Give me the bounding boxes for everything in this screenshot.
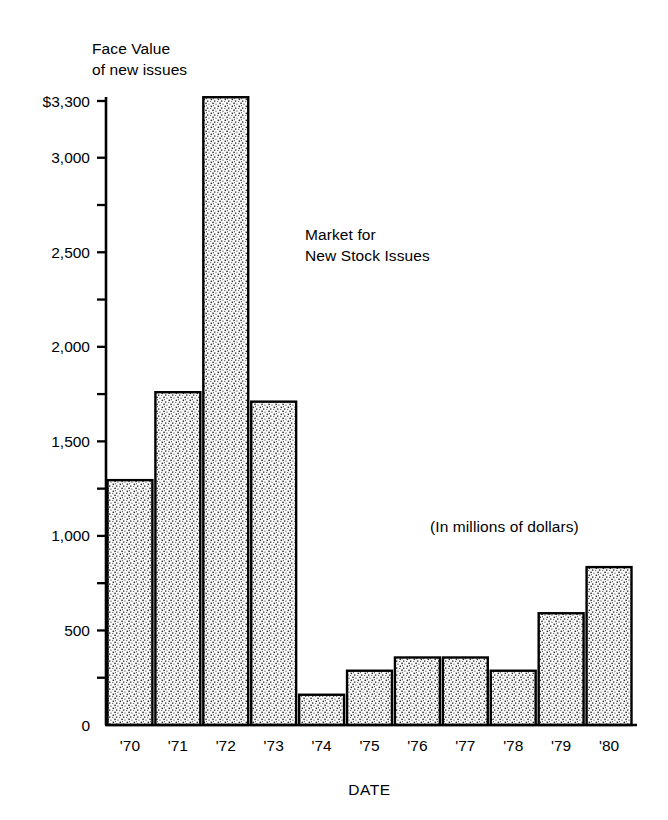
x-axis-title-text: DATE: [348, 781, 391, 798]
y-tick-label: $3,300: [43, 93, 91, 110]
y-tick-label: 0: [81, 717, 90, 734]
bar: [203, 97, 248, 725]
x-tick-label: '78: [503, 737, 523, 754]
x-tick-label: '72: [216, 737, 236, 754]
x-tick-labels: '70'71'72'73'74'75'76'77'78'79'80: [120, 737, 620, 754]
bar: [347, 671, 392, 725]
x-tick-label: '74: [311, 737, 332, 754]
bars-group: [108, 97, 632, 725]
x-tick-label: '70: [120, 737, 141, 754]
y-tick-label: 1,000: [51, 527, 90, 544]
bar: [491, 671, 536, 725]
plot-area: 05001,0001,5002,0002,5003,000$3,300 '70'…: [0, 0, 668, 820]
y-tick-label: 500: [64, 622, 90, 639]
y-tick-labels: 05001,0001,5002,0002,5003,000$3,300: [43, 93, 91, 734]
y-tick-label: 3,000: [51, 149, 90, 166]
chart-figure: Face Value of new issues Market for New …: [0, 0, 668, 820]
x-tick-label: '73: [264, 737, 284, 754]
x-tick-label: '77: [455, 737, 475, 754]
bar: [395, 657, 440, 725]
bar: [443, 657, 488, 725]
x-tick-label: '76: [407, 737, 427, 754]
bar: [251, 402, 296, 725]
y-tick-label: 1,500: [51, 433, 90, 450]
bar: [539, 613, 584, 725]
bar: [108, 480, 153, 725]
x-tick-label: '79: [551, 737, 571, 754]
bar: [155, 392, 200, 725]
bar: [299, 695, 344, 725]
x-axis-title: DATE: [0, 781, 668, 799]
x-tick-label: '71: [168, 737, 188, 754]
y-tick-label: 2,000: [51, 338, 90, 355]
bar: [587, 567, 632, 725]
y-tick-label: 2,500: [51, 244, 90, 261]
x-tick-label: '75: [359, 737, 379, 754]
x-tick-label: '80: [599, 737, 620, 754]
